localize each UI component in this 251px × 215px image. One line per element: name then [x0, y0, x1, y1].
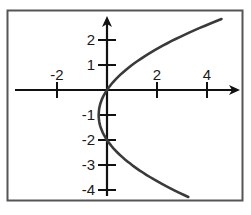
plot-frame [8, 11, 243, 201]
y-tick-label: -1 [82, 106, 95, 123]
parabola-chart: -224 21-1-2-3-4 [0, 0, 251, 215]
x-tick-label: -2 [50, 66, 63, 83]
y-tick-label: -2 [82, 131, 95, 148]
y-tick-label: 1 [87, 56, 95, 73]
x-tick-label: 4 [203, 66, 211, 83]
y-tick-label: -4 [82, 181, 95, 198]
y-tick-label: -3 [82, 156, 95, 173]
y-tick-label: 2 [87, 31, 95, 48]
x-tick-label: 2 [153, 66, 161, 83]
